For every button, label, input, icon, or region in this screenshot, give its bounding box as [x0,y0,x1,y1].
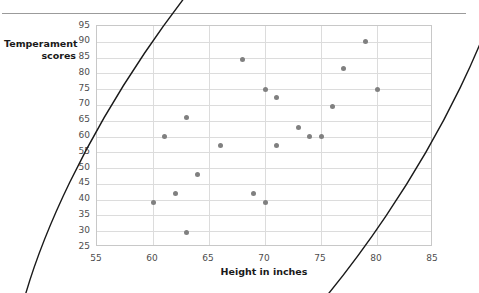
correlation-ellipse-layer [97,26,433,247]
x-axis-title: Height in inches [96,266,432,277]
y-tick-label: 70 [60,99,90,108]
y-tick-label: 35 [60,210,90,219]
y-tick-label: 30 [60,226,90,235]
y-tick-label: 85 [60,52,90,61]
scatter-plot-figure: Temperament scores 253035404550556065707… [0,0,479,293]
x-tick-label: 80 [358,254,394,263]
y-tick-label: 60 [60,131,90,140]
x-tick-label: 55 [78,254,114,263]
y-tick-label: 90 [60,36,90,45]
y-tick-label: 25 [60,242,90,251]
y-tick-label: 75 [60,84,90,93]
plot-area [96,25,432,246]
y-tick-label: 45 [60,178,90,187]
x-tick-label: 60 [134,254,170,263]
x-tick-label: 75 [302,254,338,263]
y-tick-label: 40 [60,194,90,203]
header-divider [2,13,466,14]
x-tick-label: 65 [190,254,226,263]
y-tick-label: 80 [60,68,90,77]
x-tick-label: 70 [246,254,282,263]
y-tick-label: 95 [60,21,90,30]
y-tick-label: 65 [60,115,90,124]
x-tick-label: 85 [414,254,450,263]
